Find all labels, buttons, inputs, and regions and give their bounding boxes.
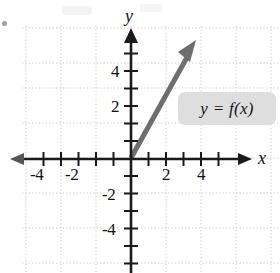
y-axis-label: y: [125, 6, 133, 27]
y-tick-label-neg2: -2: [102, 185, 115, 205]
grid-lines: [22, 26, 279, 273]
scan-artifact: [62, 6, 92, 15]
y-tick-label-2: 2: [111, 97, 119, 117]
graph-figure: y = f(x) y x -4 -2 2 4 4 2 -2 -4: [0, 0, 280, 273]
x-tick-label-4: 4: [197, 165, 205, 185]
y-tick-label-neg4: -4: [102, 220, 115, 240]
x-tick-label-neg2: -2: [65, 165, 78, 185]
scan-artifact: [2, 21, 7, 26]
function-label: y = f(x): [178, 92, 276, 125]
scan-artifact: [140, 4, 162, 12]
x-tick-label-neg4: -4: [30, 165, 43, 185]
x-axis-label: x: [258, 148, 266, 169]
x-tick-label-2: 2: [162, 165, 170, 185]
coordinate-plane-svg: [0, 0, 280, 273]
y-tick-label-4: 4: [111, 62, 119, 82]
